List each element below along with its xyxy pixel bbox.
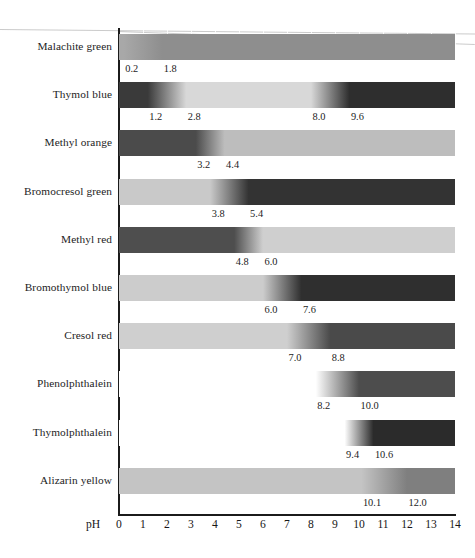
ph-indicator-chart: Malachite green0.21.8Thymol blue1.22.88.…	[0, 0, 475, 558]
colour-gradient	[119, 82, 455, 108]
indicator-label-cresol-red: Cresol red	[0, 329, 112, 341]
colour-gradient	[119, 227, 455, 253]
endpoint-low-3.2: 3.2	[197, 159, 210, 170]
indicator-band	[119, 468, 455, 494]
indicator-label-thymolphthalein: Thymolphthalein	[0, 426, 112, 438]
endpoint-low-7.0: 7.0	[289, 352, 302, 363]
endpoint-low-4.8: 4.8	[236, 256, 249, 267]
colour-gradient	[119, 130, 455, 156]
indicator-label-bromothymol-blue: Bromothymol blue	[0, 281, 112, 293]
gridline-ph-14	[455, 28, 456, 515]
tick-label-1: 1	[132, 518, 154, 531]
endpoint-high-4.4: 4.4	[226, 159, 239, 170]
indicator-label-alizarin-yellow: Alizarin yellow	[0, 474, 112, 486]
endpoint-low-8.2: 8.2	[317, 400, 330, 411]
colour-gradient	[119, 179, 455, 205]
x-axis-line	[118, 514, 456, 516]
tick-label-14: 14	[444, 518, 466, 531]
indicator-band	[119, 420, 455, 446]
endpoint-high-10.0: 10.0	[361, 400, 379, 411]
indicator-label-methyl-red: Methyl red	[0, 233, 112, 245]
indicator-band	[119, 227, 455, 253]
endpoint-high-10.6: 10.6	[375, 449, 393, 460]
indicator-band	[119, 371, 455, 397]
tick-label-7: 7	[276, 518, 298, 531]
endpoint-high-8.8: 8.8	[332, 352, 345, 363]
colour-gradient	[119, 420, 455, 446]
tick-label-9: 9	[324, 518, 346, 531]
colour-gradient	[119, 371, 455, 397]
endpoint-low2-8.0: 8.0	[313, 111, 326, 122]
colour-gradient	[119, 275, 455, 301]
indicator-label-phenolphthalein: Phenolphthalein	[0, 377, 112, 389]
indicator-band	[119, 275, 455, 301]
indicator-label-thymol-blue: Thymol blue	[0, 88, 112, 100]
tick-label-8: 8	[300, 518, 322, 531]
colour-gradient	[119, 468, 455, 494]
tick-label-3: 3	[180, 518, 202, 531]
endpoint-low-10.1: 10.1	[363, 497, 381, 508]
colour-gradient	[119, 34, 455, 60]
endpoint-high2-9.6: 9.6	[351, 111, 364, 122]
tick-label-2: 2	[156, 518, 178, 531]
tick-label-13: 13	[420, 518, 442, 531]
tick-label-11: 11	[372, 518, 394, 531]
endpoint-low-0.2: 0.2	[125, 63, 138, 74]
endpoint-high-12.0: 12.0	[409, 497, 427, 508]
endpoint-low-6.0: 6.0	[265, 304, 278, 315]
colour-gradient	[119, 323, 455, 349]
endpoint-high-7.6: 7.6	[303, 304, 316, 315]
endpoint-high-2.8: 2.8	[188, 111, 201, 122]
tick-label-0: 0	[108, 518, 130, 531]
indicator-band	[119, 130, 455, 156]
indicator-band	[119, 323, 455, 349]
x-axis-title: pH	[86, 518, 100, 531]
indicator-label-malachite-green: Malachite green	[0, 40, 112, 52]
endpoint-low-1.2: 1.2	[149, 111, 162, 122]
endpoint-low-3.8: 3.8	[212, 208, 225, 219]
endpoint-low-9.4: 9.4	[346, 449, 359, 460]
indicator-band	[119, 34, 455, 60]
tick-label-12: 12	[396, 518, 418, 531]
endpoint-high-6.0: 6.0	[265, 256, 278, 267]
tick-label-4: 4	[204, 518, 226, 531]
endpoint-high-1.8: 1.8	[164, 63, 177, 74]
indicator-band	[119, 82, 455, 108]
endpoint-high-5.4: 5.4	[250, 208, 263, 219]
indicator-label-bromocresol-green: Bromocresol green	[0, 185, 112, 197]
tick-label-5: 5	[228, 518, 250, 531]
indicator-label-methyl-orange: Methyl orange	[0, 136, 112, 148]
indicator-band	[119, 179, 455, 205]
tick-label-6: 6	[252, 518, 274, 531]
tick-label-10: 10	[348, 518, 370, 531]
